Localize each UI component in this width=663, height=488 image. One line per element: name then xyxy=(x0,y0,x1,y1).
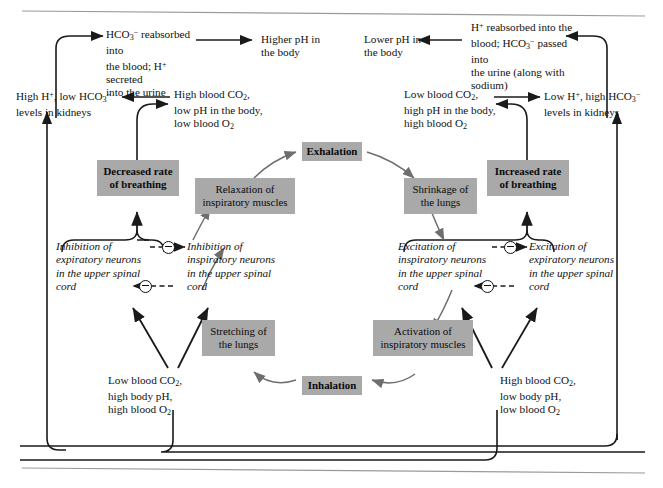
text-high-h-low-hco3: High H+, low HCO3−levels in kidneys xyxy=(16,88,130,120)
rule-top xyxy=(22,11,645,16)
box-activation-inspiratory-muscles[interactable]: Activation ofinspiratory muscles xyxy=(373,320,473,356)
text-h-reabsorbed: H+ reabsorbed into theblood; HCO3− passe… xyxy=(471,19,575,93)
inhibitory-minus-icon-right-top xyxy=(504,241,517,254)
box-activation-label: Activation ofinspiratory muscles xyxy=(381,325,466,351)
box-decreased-rate-of-breathing[interactable]: Decreased rateof breathing xyxy=(97,160,179,196)
box-relaxation-inspiratory-muscles[interactable]: Relaxation ofinspiratory muscles xyxy=(195,178,295,214)
text-inhibition-inspiratory: Inhibition ofinspiratory neuronsin the u… xyxy=(187,240,289,294)
text-low-co2-high-body-ph: Low blood CO2,high body pH,high blood O2 xyxy=(108,374,204,419)
box-increased-rate-label: Increased rateof breathing xyxy=(495,165,562,191)
box-increased-rate-of-breathing[interactable]: Increased rateof breathing xyxy=(487,160,569,196)
text-high-co2-low-body-ph: High blood CO2,low body pH,low blood O2 xyxy=(500,374,596,419)
box-relaxation-label: Relaxation ofinspiratory muscles xyxy=(203,183,288,209)
box-inhalation-label: Inhalation xyxy=(308,379,356,392)
box-shrinkage-label: Shrinkage ofthe lungs xyxy=(413,183,469,209)
text-lower-ph: Lower pH inthe body xyxy=(364,33,432,59)
text-higher-ph: Higher pH inthe body xyxy=(261,33,335,59)
rule-bottom xyxy=(22,468,645,473)
box-inhalation[interactable]: Inhalation xyxy=(302,376,362,395)
inhibitory-minus-icon-right-bottom xyxy=(481,280,494,293)
text-high-co2-low-ph: High blood CO2,low pH in the body,low bl… xyxy=(174,88,286,133)
inhibitory-minus-icon-left-bottom xyxy=(139,280,152,293)
diagram-canvas: HCO3− reabsorbed intothe blood; H+ secre… xyxy=(0,0,663,488)
box-decreased-rate-label: Decreased rateof breathing xyxy=(103,165,172,191)
text-low-h-high-hco3: Low H+, high HCO3−levels in kidneys xyxy=(544,88,660,120)
inhibitory-minus-icon-left-top xyxy=(162,241,175,254)
box-exhalation-label: Exhalation xyxy=(307,145,358,158)
box-stretching-label: Stretching ofthe lungs xyxy=(210,325,267,351)
text-excitation-expiratory: Excitation ofexpiratory neuronsin the up… xyxy=(529,240,631,294)
box-stretching-of-lungs[interactable]: Stretching ofthe lungs xyxy=(202,320,275,356)
box-shrinkage-of-lungs[interactable]: Shrinkage ofthe lungs xyxy=(404,178,477,214)
text-low-co2-high-ph: Low blood CO2,high pH in the body,high b… xyxy=(404,88,516,133)
box-exhalation[interactable]: Exhalation xyxy=(302,142,362,161)
